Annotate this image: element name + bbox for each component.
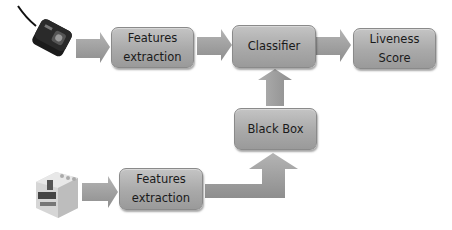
classifier-label: Classifier [248,37,301,56]
fingerprint-scanner-icon [14,4,76,64]
capacitive-sensor-device-icon [28,164,84,220]
black-box-node: Black Box [234,108,317,150]
features-extraction-bottom-label: Features extraction [132,170,190,208]
arrow-classifier-to-liveness [316,29,351,62]
black-box-label: Black Box [247,120,303,139]
liveness-score-box: Liveness Score [353,28,436,69]
classifier-box: Classifier [232,25,316,68]
liveness-detection-diagram: Features extraction Classifier Liveness … [0,0,452,230]
arrow-features-to-classifier [197,29,232,61]
arrow-device-to-features-top [76,32,110,63]
arrow-blackbox-to-classifier [258,69,292,106]
arrow-device-to-features-bottom [82,176,118,208]
features-extraction-top-label: Features extraction [123,29,181,67]
arrow-features-to-blackbox [205,153,298,198]
liveness-score-label: Liveness Score [370,30,420,68]
features-extraction-bottom-box: Features extraction [119,168,203,210]
features-extraction-top-box: Features extraction [111,27,194,68]
